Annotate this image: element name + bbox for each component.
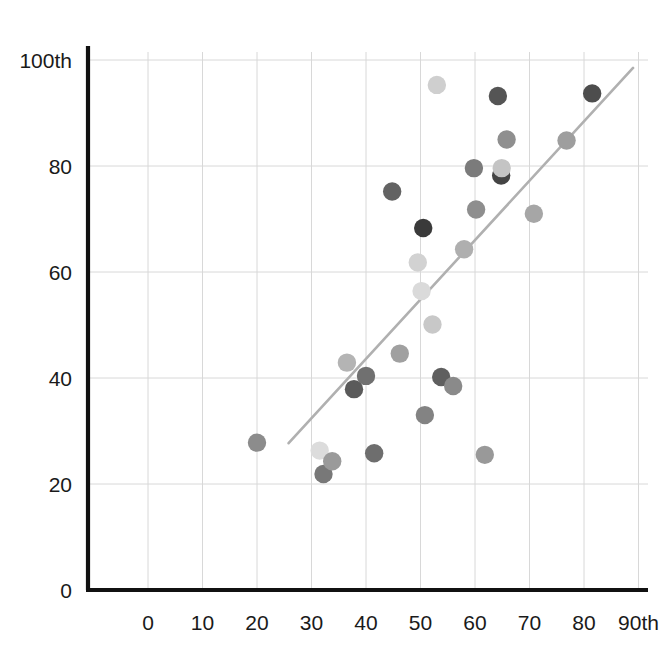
data-point [444, 377, 462, 395]
data-point [476, 446, 494, 464]
y-axis-tick-label: 80 [0, 156, 72, 177]
data-points-group [248, 76, 602, 483]
x-axis-tick-label: 40 [354, 612, 377, 633]
data-point [357, 367, 375, 385]
data-point [409, 253, 427, 271]
y-axis-tick-label: 0 [0, 580, 72, 601]
data-point [493, 159, 511, 177]
data-point [414, 219, 432, 237]
plot-canvas [0, 0, 664, 661]
x-axis-tick-label: 20 [245, 612, 268, 633]
x-axis-tick-label: 60 [463, 612, 486, 633]
y-axis-tick-label: 40 [0, 368, 72, 389]
data-point [383, 182, 401, 200]
x-axis-tick-label: 80 [572, 612, 595, 633]
x-axis-tick-label: 0 [142, 612, 154, 633]
data-point [583, 84, 601, 102]
y-axis-tick-label: 100th [0, 50, 72, 71]
data-point [416, 406, 434, 424]
data-point [525, 205, 543, 223]
data-point [323, 452, 341, 470]
x-axis-tick-label: 50 [409, 612, 432, 633]
data-point [455, 240, 473, 258]
x-axis-tick-label: 30 [300, 612, 323, 633]
data-point [489, 87, 507, 105]
x-axis-tick-label: 70 [518, 612, 541, 633]
x-axis-tick-label: 90th [618, 612, 659, 633]
data-point [338, 353, 356, 371]
data-point [365, 444, 383, 462]
data-point [465, 159, 483, 177]
y-axis-tick-label: 20 [0, 474, 72, 495]
data-point [557, 131, 575, 149]
y-axis-tick-label: 60 [0, 262, 72, 283]
axis-lines [86, 46, 648, 590]
data-point [428, 76, 446, 94]
data-point [467, 200, 485, 218]
data-point [412, 282, 430, 300]
data-point [497, 130, 515, 148]
x-axis-tick-label: 10 [191, 612, 214, 633]
scatter-plot-figure: 020406080100th 0102030405060708090th [0, 0, 664, 661]
data-point [248, 433, 266, 451]
data-point [391, 344, 409, 362]
data-point [423, 315, 441, 333]
